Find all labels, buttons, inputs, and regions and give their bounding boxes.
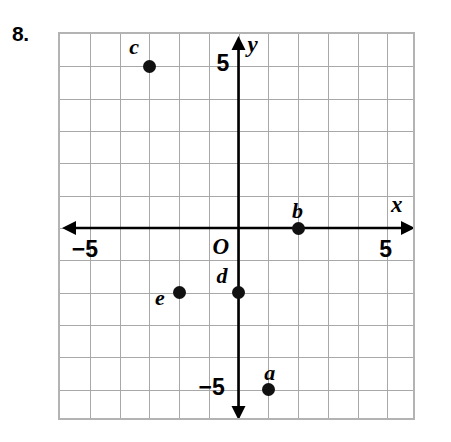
point-label-b: b — [292, 198, 303, 224]
problem-number: 8. — [12, 22, 29, 46]
point-label-e: e — [155, 285, 165, 311]
data-point-c — [143, 60, 156, 73]
point-label-d: d — [217, 263, 228, 289]
point-label-c: c — [129, 34, 139, 60]
y-axis-arrow-up — [232, 36, 246, 50]
origin-label: O — [213, 234, 230, 260]
axes — [60, 34, 415, 420]
tick-label-y-negative-five: −5 — [199, 374, 225, 401]
data-point-e — [173, 286, 186, 299]
x-axis-label: x — [391, 192, 403, 218]
tick-label-x-negative-five: −5 — [72, 236, 98, 263]
x-axis-arrow-right — [401, 221, 415, 235]
coordinate-plane: abcde −555−5 O x y — [58, 32, 415, 420]
tick-label-y-positive-five: 5 — [217, 50, 230, 77]
x-axis-arrow-left — [62, 221, 76, 235]
y-axis-arrow-down — [232, 406, 246, 420]
point-label-a: a — [264, 360, 275, 386]
worksheet-figure: 8. abcde −555−5 O x y — [0, 0, 451, 442]
y-axis-label: y — [248, 32, 258, 58]
tick-label-x-positive-five: 5 — [379, 236, 392, 263]
